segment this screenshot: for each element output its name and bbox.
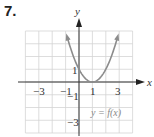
curve-left-arrow-icon [66,34,71,41]
x-tick-1: 1 [90,85,96,97]
x-axis-arrow-icon [136,79,145,85]
x-tick-neg3: −3 [33,85,45,97]
y-tick-neg3: −3 [67,116,79,128]
function-graph: y x −3 −1 1 3 1 −1 −3 y = f(x) [0,0,154,137]
x-axis-label: x [146,76,152,88]
y-axis-arrow-icon [76,18,82,27]
y-axis-label: y [74,5,80,17]
function-label: y = f(x) [90,107,122,119]
x-tick-3: 3 [115,85,121,97]
y-tick-neg1: −1 [67,90,79,102]
y-tick-1: 1 [72,64,78,76]
curve-right-arrow-icon [114,34,119,41]
